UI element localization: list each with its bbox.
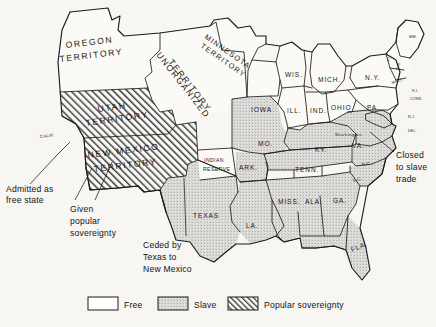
svg-text:New Mexico: New Mexico xyxy=(143,264,192,274)
legend-label-slave: Slave xyxy=(194,300,217,310)
label-ill: ILL. xyxy=(287,107,302,114)
legend-swatch-free xyxy=(88,297,118,310)
svg-text:Texas to: Texas to xyxy=(143,252,177,262)
legend-item-slave: Slave xyxy=(158,297,217,310)
svg-text:trade: trade xyxy=(396,174,417,184)
label-va: VA. xyxy=(352,142,365,149)
region-iowa xyxy=(247,60,280,97)
legend-item-popular-sovereignty: Popular sovereignty xyxy=(228,297,344,310)
svg-text:free state: free state xyxy=(6,195,44,205)
annotation-admitted-free-state: Admitted as free state xyxy=(6,184,54,205)
legend-label-free: Free xyxy=(124,300,142,310)
label-ky: KY. xyxy=(315,146,327,153)
annotation-ceded-by-texas: Ceded by Texas to New Mexico xyxy=(143,240,192,274)
region-michigan xyxy=(310,44,346,94)
label-nj: N.J. xyxy=(408,115,415,119)
label-pa: PA. xyxy=(367,104,380,111)
label-iowa: IOWA xyxy=(251,106,272,113)
label-calif: CALIF. xyxy=(40,132,55,139)
label-me: ME. xyxy=(409,34,418,39)
label-ga: GA. xyxy=(333,197,347,204)
svg-text:to slave: to slave xyxy=(396,162,427,172)
label-ala: ALA. xyxy=(305,198,323,205)
svg-text:Given: Given xyxy=(70,204,93,214)
svg-text:RESERVE: RESERVE xyxy=(203,166,230,172)
legend: Free Slave Popular sovereignty xyxy=(88,297,344,310)
label-texas: TEXAS xyxy=(193,212,219,219)
map-figure: OREGON TERRITORY UNORGANIZED TERRITORY M… xyxy=(0,0,436,327)
label-del: DEL. xyxy=(408,129,417,133)
svg-text:INDIAN: INDIAN xyxy=(204,157,224,163)
label-washington-dc: Washington xyxy=(335,132,362,137)
region-wisconsin xyxy=(276,42,312,88)
region-indian-reserve xyxy=(198,148,236,180)
legend-swatch-popular-sovereignty xyxy=(228,297,258,310)
label-conn: CONN. xyxy=(410,97,423,101)
legend-item-free: Free xyxy=(88,297,142,310)
legend-label-popular-sovereignty: Popular sovereignty xyxy=(264,300,344,310)
label-ny: N.Y. xyxy=(365,74,381,81)
label-ind: IND. xyxy=(310,107,327,114)
label-ri: R.I. xyxy=(412,89,418,93)
us-map-1850: OREGON TERRITORY UNORGANIZED TERRITORY M… xyxy=(0,0,436,327)
label-mo: MO. xyxy=(258,140,273,147)
svg-text:popular: popular xyxy=(70,216,100,226)
svg-text:sovereignty: sovereignty xyxy=(70,228,117,238)
svg-text:Ceded by: Ceded by xyxy=(143,240,182,250)
label-tenn: TENN. xyxy=(295,166,319,173)
label-wis: WIS. xyxy=(285,71,303,78)
label-mich: MICH. xyxy=(318,76,341,83)
legend-swatch-slave xyxy=(158,297,188,310)
label-ohio: OHIO xyxy=(331,104,351,111)
label-ark: ARK. xyxy=(239,164,258,171)
annotation-given-popular-sovereignty: Given popular sovereignty xyxy=(70,204,117,238)
leader-admitted-free-state xyxy=(30,142,70,184)
annotation-closed-to-slave-trade: Closed to slave trade xyxy=(396,150,427,184)
svg-text:Closed: Closed xyxy=(396,150,424,160)
svg-text:Admitted as: Admitted as xyxy=(6,184,54,194)
label-miss: MISS. xyxy=(278,198,300,205)
label-la: LA. xyxy=(246,222,259,229)
